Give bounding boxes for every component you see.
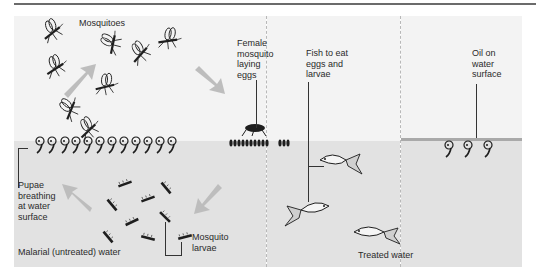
leader-line [476, 84, 477, 138]
label-larvae: Mosquito larvae [192, 232, 229, 253]
label-fish: Fish to eat eggs and larvae [306, 48, 348, 80]
leader-line [308, 166, 324, 167]
label-pupae: Pupae breathing at water surface [18, 180, 56, 222]
leader-line [165, 222, 166, 255]
label-mosquitoes: Mosquitoes [79, 18, 125, 29]
label-female-laying: Female mosquito laying eggs [237, 38, 274, 80]
leader-line [308, 82, 309, 202]
leader-line [165, 255, 181, 256]
fish-icon [318, 152, 366, 178]
fish-icon [283, 196, 331, 228]
air-region [401, 16, 522, 139]
pupae-under-oil-icon [440, 140, 500, 160]
label-oil: Oil on water surface [472, 48, 502, 80]
leader-line [256, 80, 257, 128]
label-untreated-water: Malarial (untreated) water [18, 247, 121, 258]
label-treated-water: Treated water [358, 250, 413, 261]
fish-icon [352, 222, 402, 248]
leader-line [18, 148, 28, 149]
leader-line [181, 242, 182, 256]
